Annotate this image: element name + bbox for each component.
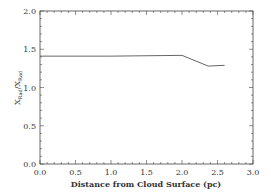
x-tick-label: 2.0 [176, 168, 189, 177]
y-tick-label: 0.5 [23, 122, 36, 131]
y-tick-label: 1.0 [23, 84, 36, 93]
line-chart: 0.00.51.01.52.02.53.0 0.00.51.01.52.0 Di… [0, 0, 271, 196]
y-axis-label: XRad/XRad [13, 70, 23, 105]
x-axis-label: Distance from Cloud Surface (pc) [71, 179, 222, 189]
y-tick-label: 0.0 [23, 160, 36, 169]
x-tick-label: 1.5 [140, 168, 153, 177]
series-line [40, 55, 225, 66]
plot-frame [40, 11, 253, 164]
x-tick-label: 0.5 [69, 168, 82, 177]
y-axis-ticks: 0.00.51.01.52.0 [23, 7, 253, 169]
x-tick-label: 3.0 [247, 168, 260, 177]
x-tick-label: 2.5 [211, 168, 224, 177]
x-tick-label: 1.0 [105, 168, 118, 177]
y-tick-label: 2.0 [23, 7, 36, 16]
x-axis-ticks: 0.00.51.01.52.02.53.0 [34, 11, 260, 177]
x-tick-label: 0.0 [34, 168, 47, 177]
data-series [40, 55, 225, 66]
y-tick-label: 1.5 [23, 45, 36, 54]
